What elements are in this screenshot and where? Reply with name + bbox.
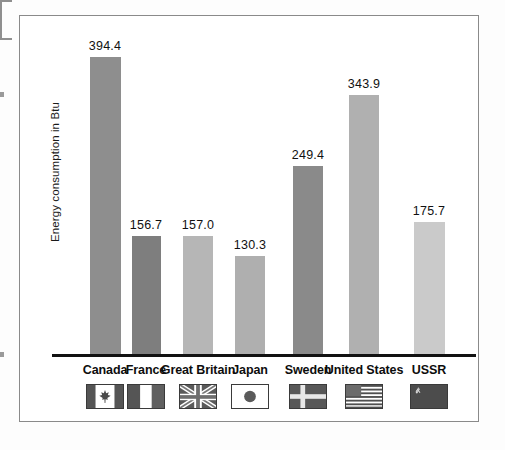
plot-area: 394.4156.7157.0130.3249.4343.9175.7 xyxy=(54,38,468,354)
bar-value-label: 157.0 xyxy=(182,218,214,232)
bar-value-label: 175.7 xyxy=(413,204,445,218)
legend-country-label: USSR xyxy=(381,363,477,377)
ussr-flag-icon xyxy=(410,384,448,409)
x-axis-baseline xyxy=(52,354,476,357)
page-edge-artifact xyxy=(0,92,4,97)
bar-value-label: 249.4 xyxy=(292,148,324,162)
page-edge-artifact xyxy=(0,352,4,357)
bar-france[interactable] xyxy=(132,236,161,354)
bar-japan[interactable] xyxy=(235,256,265,354)
page-edge-artifact xyxy=(0,38,12,40)
bar-canada[interactable] xyxy=(90,57,121,354)
bar-sweden[interactable] xyxy=(293,166,323,354)
chart-page: Energy consumption in Btu 394.4156.7157.… xyxy=(0,0,505,450)
bar-value-label: 394.4 xyxy=(89,39,121,53)
bar-great-britain[interactable] xyxy=(183,236,213,354)
united-states-flag-icon xyxy=(345,384,383,409)
chart-frame: Energy consumption in Btu 394.4156.7157.… xyxy=(19,15,479,422)
legend-item-ussr[interactable]: USSR xyxy=(381,363,477,409)
page-edge-artifact xyxy=(0,0,2,40)
bar-value-label: 343.9 xyxy=(348,77,380,91)
bar-value-label: 156.7 xyxy=(130,218,162,232)
bar-ussr[interactable] xyxy=(414,222,445,354)
bar-value-label: 130.3 xyxy=(234,238,266,252)
bar-united-states[interactable] xyxy=(349,95,379,354)
flag-container xyxy=(381,384,477,409)
